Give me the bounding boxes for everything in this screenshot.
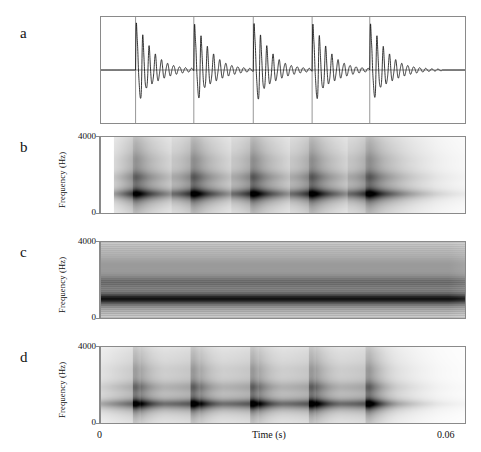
narrowband-spectrogram-image (101, 242, 465, 318)
panel-b-spectrogram-plot (100, 136, 466, 214)
intermediate-spectrogram-image (101, 347, 465, 423)
xaxis-label: Time (s) (252, 430, 286, 440)
panel-d-ytick-max: 4000 (60, 342, 96, 351)
waveform-trace (101, 17, 465, 123)
panel-letter-d: d (20, 350, 28, 365)
panel-d-spectrogram-plot (100, 346, 466, 424)
panel-b-ytick-min: 0 (60, 208, 96, 217)
panel-a-waveform-plot (100, 16, 466, 124)
xtick-min: 0 (97, 430, 102, 440)
panel-b-ytick-max: 4000 (60, 132, 96, 141)
panel-c-ylabel: Frequency (Hz) (58, 257, 67, 313)
broadband-spectrogram-image (101, 137, 465, 213)
panel-b-ylabel: Frequency (Hz) (58, 152, 67, 208)
panel-c-ytick-max: 4000 (60, 237, 96, 246)
xtick-max: 0.06 (437, 430, 455, 440)
figure-root: a b 4000 0 Frequency (Hz) c 4000 0 Frequ… (0, 0, 481, 452)
panel-c-ytick-min: 0 (60, 313, 96, 322)
panel-letter-a: a (20, 26, 27, 41)
panel-d-ylabel: Frequency (Hz) (58, 362, 67, 418)
panel-letter-b: b (20, 140, 28, 155)
panel-letter-c: c (20, 245, 27, 260)
panel-c-spectrogram-plot (100, 241, 466, 319)
panel-d-ytick-min: 0 (60, 418, 96, 427)
